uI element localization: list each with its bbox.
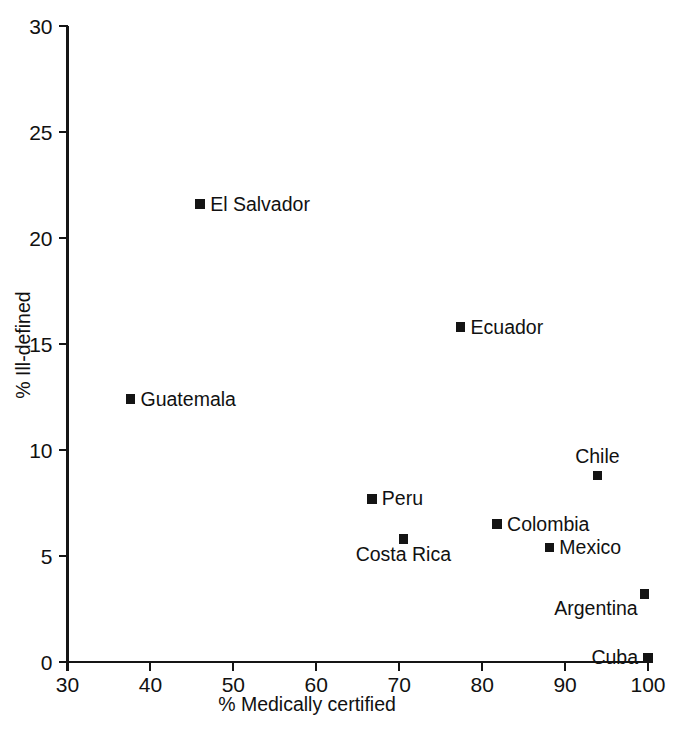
point-marker-el-salvador: [195, 199, 205, 209]
x-tick-label: 40: [139, 673, 162, 696]
point-label-ecuador: Ecuador: [471, 316, 544, 338]
x-tick-label: 90: [553, 673, 576, 696]
y-tick-label: 5: [41, 545, 53, 568]
x-tick-label: 80: [470, 673, 493, 696]
y-tick-label: 25: [29, 121, 52, 144]
point-marker-argentina: [640, 589, 650, 599]
point-marker-ecuador: [456, 322, 466, 332]
point-label-chile: Chile: [575, 445, 619, 467]
y-tick-label: 0: [41, 651, 53, 674]
point-marker-mexico: [545, 543, 555, 553]
plot-canvas: 051015202530 30405060708090100 % Ill-def…: [0, 0, 678, 734]
y-axis-ticks: 051015202530: [29, 15, 67, 674]
axes: [68, 26, 649, 662]
data-point: Cuba: [591, 646, 652, 668]
data-point: Argentina: [554, 589, 649, 619]
point-marker-peru: [367, 494, 377, 504]
x-axis-title: % Medically certified: [218, 693, 396, 715]
data-point: Chile: [575, 445, 619, 480]
data-point: Peru: [367, 487, 423, 509]
data-point-group: El SalvadorEcuadorGuatemalaChilePeruColo…: [126, 193, 653, 669]
data-point: Guatemala: [126, 388, 236, 410]
point-label-argentina: Argentina: [554, 597, 638, 619]
x-tick-label: 100: [630, 673, 665, 696]
data-point: Colombia: [492, 513, 589, 535]
point-label-colombia: Colombia: [507, 513, 590, 535]
data-point: El Salvador: [195, 193, 310, 215]
y-tick-label: 30: [29, 15, 52, 38]
point-label-cuba: Cuba: [591, 646, 638, 668]
point-label-costa-rica: Costa Rica: [356, 543, 452, 565]
x-axis-ticks: 30405060708090100: [56, 662, 666, 696]
point-label-el-salvador: El Salvador: [210, 193, 310, 215]
point-label-peru: Peru: [382, 487, 423, 509]
y-tick-label: 10: [29, 439, 52, 462]
point-marker-cuba: [643, 653, 653, 663]
x-tick-label: 30: [56, 673, 79, 696]
data-point: Mexico: [545, 536, 622, 558]
data-point: Ecuador: [456, 316, 544, 338]
scatter-plot-figure: 051015202530 30405060708090100 % Ill-def…: [0, 0, 678, 734]
point-label-mexico: Mexico: [559, 536, 621, 558]
point-marker-chile: [593, 471, 603, 481]
point-label-guatemala: Guatemala: [141, 388, 237, 410]
point-marker-guatemala: [126, 394, 136, 404]
data-point: Costa Rica: [356, 534, 452, 565]
y-tick-label: 20: [29, 227, 52, 250]
y-axis-title: % Ill-defined: [12, 291, 34, 398]
point-marker-colombia: [492, 519, 502, 529]
